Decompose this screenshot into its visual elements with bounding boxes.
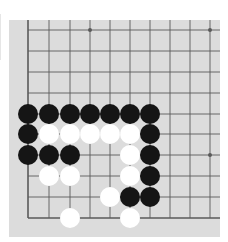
white-stone[interactable] <box>39 124 59 144</box>
black-stone[interactable] <box>39 145 59 165</box>
white-stone[interactable] <box>100 124 120 144</box>
black-stone[interactable] <box>140 124 160 144</box>
white-stone[interactable] <box>120 124 140 144</box>
black-stone[interactable] <box>60 104 80 124</box>
white-stone[interactable] <box>60 166 80 186</box>
white-stone[interactable] <box>80 124 100 144</box>
black-stone[interactable] <box>140 104 160 124</box>
white-stone[interactable] <box>60 208 80 228</box>
star-point-icon <box>208 28 212 32</box>
go-board[interactable] <box>9 20 220 237</box>
black-stone[interactable] <box>39 104 59 124</box>
white-stone[interactable] <box>100 187 120 207</box>
white-stone[interactable] <box>120 145 140 165</box>
black-stone[interactable] <box>140 166 160 186</box>
black-stone[interactable] <box>80 104 100 124</box>
black-stone[interactable] <box>120 104 140 124</box>
black-stone[interactable] <box>140 145 160 165</box>
black-stone[interactable] <box>18 145 38 165</box>
black-stone[interactable] <box>100 104 120 124</box>
black-stone[interactable] <box>60 145 80 165</box>
white-stone[interactable] <box>120 166 140 186</box>
black-stone[interactable] <box>18 104 38 124</box>
star-point-icon <box>88 28 92 32</box>
black-stone[interactable] <box>140 187 160 207</box>
white-stone[interactable] <box>120 208 140 228</box>
star-point-icon <box>208 153 212 157</box>
black-stone[interactable] <box>120 187 140 207</box>
edge-artifact <box>0 14 1 60</box>
black-stone[interactable] <box>18 124 38 144</box>
white-stone[interactable] <box>39 166 59 186</box>
go-board-canvas[interactable] <box>9 20 220 237</box>
white-stone[interactable] <box>60 124 80 144</box>
